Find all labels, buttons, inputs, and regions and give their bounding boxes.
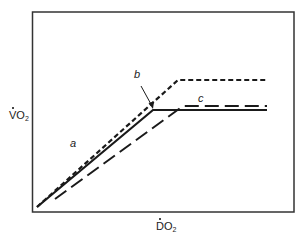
plot-frame: [33, 12, 295, 212]
annotation-b-arrowhead-icon: [149, 102, 155, 110]
annotation-label-b: b: [134, 68, 140, 80]
x-axis-label-sub: O: [164, 220, 173, 232]
x-axis-label-subscript: 2: [173, 226, 177, 233]
y-axis-label-subscript: 2: [25, 115, 29, 122]
annotation-label-a: a: [70, 137, 76, 149]
x-axis-label-letter: D: [156, 220, 164, 232]
series-a-solid-line: [37, 110, 267, 207]
series-c-long-dash-line: [55, 106, 267, 199]
y-axis-label: VO2: [9, 109, 29, 122]
x-axis-label: DO2: [156, 220, 176, 233]
y-axis-label-sub: O: [16, 109, 25, 121]
chart-canvas: [0, 0, 302, 238]
annotation-label-c: c: [198, 92, 204, 104]
y-axis-label-letter: V: [9, 109, 16, 121]
